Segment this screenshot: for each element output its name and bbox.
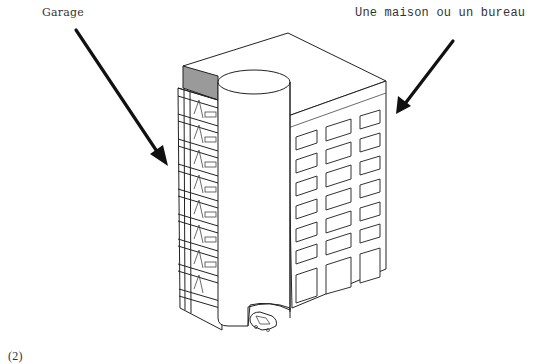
car [250, 312, 277, 332]
office-arrow [396, 41, 453, 114]
garage-arrow [76, 30, 168, 166]
garage-section [178, 88, 222, 330]
cylindrical-ramp-tower [218, 70, 290, 326]
building-illustration [0, 0, 533, 364]
